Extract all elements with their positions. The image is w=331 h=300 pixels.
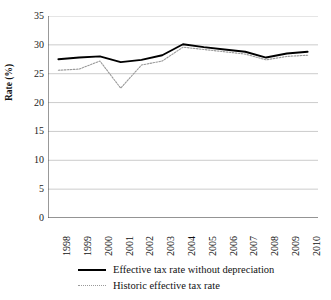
x-tick-label: 1998: [52, 222, 64, 260]
axis-lines: [48, 16, 318, 218]
x-tick-label: 2001: [115, 222, 127, 260]
x-tick-label: 2006: [219, 222, 231, 260]
legend-item-historic-effective-tax-rate: Historic effective tax rate: [0, 278, 331, 294]
y-tick-label: 35: [22, 11, 44, 21]
gridlines: [48, 16, 318, 218]
legend-key-dotted-line-icon: [78, 281, 106, 291]
y-tick-label: 25: [22, 69, 44, 79]
x-tick-label: 2002: [135, 222, 147, 260]
x-tick-label: 2004: [177, 222, 189, 260]
legend-key-solid-line-icon: [78, 265, 106, 275]
line-chart-svg: [48, 16, 318, 218]
x-tick-label: 1999: [73, 222, 85, 260]
chart-legend: Effective tax rate without depreciation …: [0, 262, 331, 294]
y-tick-label: 20: [22, 98, 44, 108]
legend-label: Effective tax rate without depreciation: [113, 264, 274, 276]
legend-item-effective-tax-rate-without-depreciation: Effective tax rate without depreciation: [0, 262, 331, 278]
data-series-layer: [58, 44, 307, 88]
x-tick-label: 2003: [156, 222, 168, 260]
y-tick-label: 0: [22, 213, 44, 223]
title-remnant: [0, 0, 331, 7]
y-tick-label: 10: [22, 155, 44, 165]
y-tick-label: 15: [22, 126, 44, 136]
plot-area: [48, 16, 318, 218]
y-axis-tick-labels: 35302520151050: [16, 0, 44, 300]
x-tick-label: 2000: [94, 222, 106, 260]
x-axis-tick-labels: 1998199920002001200220032004200520062007…: [48, 222, 318, 262]
y-axis-label: Rate (%): [3, 87, 15, 101]
y-tick-label: 5: [22, 184, 44, 194]
x-tick-label: 2008: [260, 222, 272, 260]
y-tick-label: 30: [22, 40, 44, 50]
series-line-1: [58, 47, 307, 88]
x-tick-label: 2007: [239, 222, 251, 260]
x-tick-label: 2005: [198, 222, 210, 260]
chart-figure: Rate (%) 35302520151050 1998199920002001…: [0, 0, 331, 300]
legend-label: Historic effective tax rate: [113, 280, 220, 292]
x-tick-label: 2009: [281, 222, 293, 260]
x-tick-label: 2010: [302, 222, 314, 260]
